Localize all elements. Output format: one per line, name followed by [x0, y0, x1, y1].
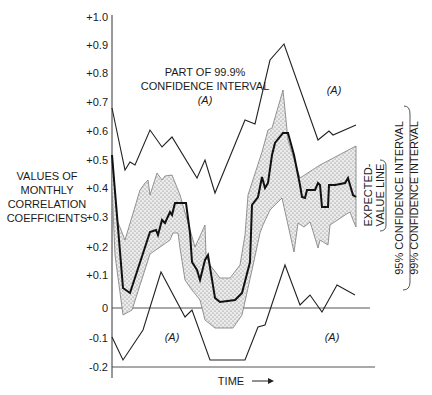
y-tick: -0.1: [89, 332, 108, 344]
expected-value-label: EXPECTED- VALUE LINE: [362, 163, 386, 226]
upper-note: PART OF 99.9% CONFIDENCE INTERVAL (A): [141, 66, 270, 106]
y-tick: +0.5: [86, 154, 108, 166]
y-tick: +0.8: [86, 67, 108, 79]
y-tick: +0.3: [86, 211, 108, 223]
y-tick: +0.1: [86, 269, 108, 281]
expected-value-label-line-1: EXPECTED-: [362, 163, 374, 226]
y-axis-title-line-3: CORRELATION: [8, 198, 87, 210]
tag-a-lower-left: (A): [165, 331, 180, 343]
upper-note-line-1: PART OF 99.9%: [165, 66, 246, 78]
tag-a-upper-right: (A): [327, 84, 342, 96]
y-axis-ticks: +1.0 +0.9 +0.8 +0.7 +0.6 +0.5 +0.4 +0.3 …: [86, 11, 108, 373]
y-tick: +1.0: [86, 11, 108, 23]
y-axis-title-line-2: MONTHLY: [21, 184, 75, 196]
time-arrow-icon: [252, 378, 274, 384]
y-tick: +0.6: [86, 125, 108, 137]
tag-a-lower-right: (A): [325, 331, 340, 343]
ci95-label: 95% CONFIDENCE INTERVAL: [393, 121, 405, 275]
y-tick: +0.2: [86, 241, 108, 253]
expected-value-label-line-2: VALUE LINE: [374, 164, 386, 227]
y-axis-title-line-4: COEFFICIENTS: [7, 212, 88, 224]
y-tick: +0.7: [86, 96, 108, 108]
upper-note-line-2: CONFIDENCE INTERVAL: [141, 80, 270, 92]
y-axis-title-line-1: VALUES OF: [17, 170, 78, 182]
ci95-label-text: 95% CONFIDENCE INTERVAL: [393, 121, 405, 275]
y-tick: -0.2: [89, 361, 108, 373]
y-axis-title: VALUES OF MONTHLY CORRELATION COEFFICIEN…: [7, 170, 88, 224]
x-axis-title: TIME: [218, 375, 244, 387]
confidence-band-95: [112, 90, 356, 328]
upper-note-tag: (A): [198, 94, 213, 106]
y-tick: +0.4: [86, 182, 108, 194]
correlation-chart: VALUES OF MONTHLY CORRELATION COEFFICIEN…: [0, 0, 432, 395]
y-tick: +0.9: [86, 39, 108, 51]
y-tick: 0: [102, 302, 108, 314]
